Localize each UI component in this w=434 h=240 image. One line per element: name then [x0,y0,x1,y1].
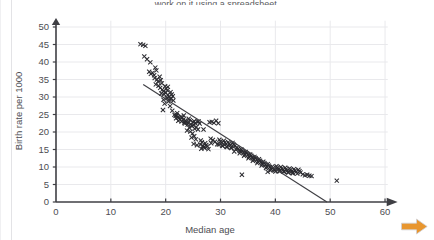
y-axis-arrowhead [52,18,60,25]
data-point-marker [240,173,244,177]
next-arrow-button[interactable] [401,218,428,235]
y-axis-label: Birth rate per 1000 [13,72,24,151]
data-point-marker [201,127,205,131]
x-axis-arrowhead [387,198,398,206]
data-point-marker [216,121,220,125]
y-tick-label: 20 [38,126,49,137]
x-axis-label: Median age [185,224,235,235]
y-tick-label: 5 [44,179,49,190]
x-tick-label: 50 [325,206,336,217]
horizontal-gridlines [56,27,388,185]
x-tick-label: 0 [53,206,58,217]
y-axis-ticks: 05101520253035404550 [38,21,56,207]
y-tick-label: 0 [44,196,49,207]
y-tick-label: 35 [38,74,49,85]
caption-text: work on it using a spreadsheet. [155,0,280,5]
data-point-marker [161,108,165,112]
y-tick-label: 25 [38,109,49,120]
x-tick-label: 60 [380,206,391,217]
x-tick-label: 40 [270,206,281,217]
data-point-marker [158,75,162,79]
chart-axes [52,18,398,206]
y-tick-label: 45 [38,39,49,50]
data-point-marker [171,98,175,102]
data-point-marker [168,104,172,108]
data-point-marker [170,109,174,113]
page-background: work on it using a spreadsheet. 05101520… [0,0,434,240]
y-tick-label: 30 [38,91,49,102]
y-tick-label: 50 [38,21,49,32]
y-tick-label: 40 [38,56,49,67]
y-tick-label: 10 [38,161,49,172]
chart-canvas: 05101520253035404550 0102030405060 Birth… [0,6,434,236]
x-tick-label: 20 [160,206,171,217]
vertical-gridlines [111,21,385,202]
data-point-marker [335,179,339,183]
y-tick-label: 15 [38,144,49,155]
x-tick-label: 30 [215,206,226,217]
arrow-right-icon [401,218,428,235]
clipped-caption: work on it using a spreadsheet. [0,0,434,5]
x-tick-label: 10 [106,206,117,217]
scatter-chart: 05101520253035404550 0102030405060 Birth… [0,6,434,236]
data-points [138,42,339,183]
